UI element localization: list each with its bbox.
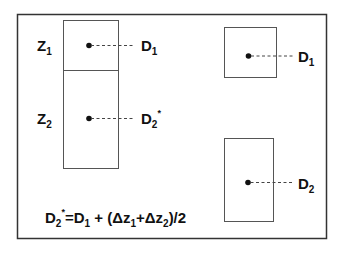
point-label-d1-right: D1 (298, 48, 315, 68)
layer-label-z1: Z1 (37, 37, 52, 57)
formula: D2*=D1 + (Δz1+Δz2)/2 (45, 207, 186, 229)
point-label-d1-left: D1 (141, 37, 158, 57)
point-label-d2-star: D2* (141, 108, 161, 130)
point-label-d2-right: D2 (298, 175, 315, 195)
left-column-box (64, 21, 119, 169)
point-d2-star (86, 116, 92, 122)
point-d1-right (246, 53, 252, 59)
right-top-box (225, 28, 277, 78)
layer-label-z2: Z2 (37, 110, 52, 130)
point-d2-right (245, 180, 251, 186)
point-d1-left (86, 43, 92, 49)
diagram-canvas: Z1 D1 Z2 D2* D1 D2 D2*=D1 + (Δz1+Δz2)/2 (0, 0, 341, 253)
